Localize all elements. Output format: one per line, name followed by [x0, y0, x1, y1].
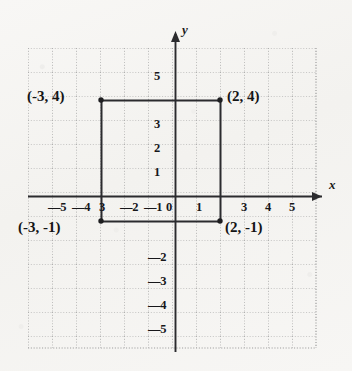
- y-tick-label-0: 5: [154, 69, 160, 84]
- x-tick-label-7: 3: [241, 200, 247, 215]
- point-label-top-right: (2, 4): [227, 88, 260, 105]
- x-tick-label-8: 4: [265, 200, 271, 215]
- y-tick-label-6: —4: [148, 298, 166, 313]
- point-marker-top-right: [217, 97, 222, 102]
- x-tick-label-3: —2: [120, 200, 138, 215]
- coordinate-plane-figure: y x —5—43—2—101345 5321—2—3—4—5 (-3, 4) …: [0, 0, 352, 371]
- coordinate-plot-svg: [0, 0, 352, 371]
- point-label-bottom-right: (2, -1): [225, 219, 263, 236]
- point-marker-top-left: [98, 97, 103, 102]
- x-tick-label-4: —1: [144, 200, 162, 215]
- y-axis-label: y: [182, 22, 188, 38]
- x-tick-label-9: 5: [289, 200, 295, 215]
- x-tick-label-5: 0: [166, 200, 172, 215]
- y-tick-label-5: —3: [148, 274, 166, 289]
- y-tick-label-2: 2: [154, 141, 160, 156]
- y-axis-arrowhead: [171, 31, 180, 42]
- x-axis-arrowhead: [312, 192, 322, 201]
- y-tick-label-7: —5: [148, 322, 166, 337]
- x-tick-label-0: —5: [48, 200, 66, 215]
- x-tick-label-1: —4: [72, 200, 90, 215]
- point-marker-bottom-right: [217, 218, 222, 223]
- point-marker-bottom-left: [98, 218, 103, 223]
- x-tick-label-2: 3: [99, 200, 105, 215]
- grid-lines: [28, 48, 316, 348]
- y-tick-label-4: —2: [148, 250, 166, 265]
- point-label-bottom-left: (-3, -1): [18, 219, 60, 236]
- y-tick-label-3: 1: [154, 165, 160, 180]
- y-tick-label-1: 3: [154, 117, 160, 132]
- x-axis-label: x: [329, 177, 336, 193]
- point-label-top-left: (-3, 4): [27, 88, 65, 105]
- x-tick-label-6: 1: [196, 200, 202, 215]
